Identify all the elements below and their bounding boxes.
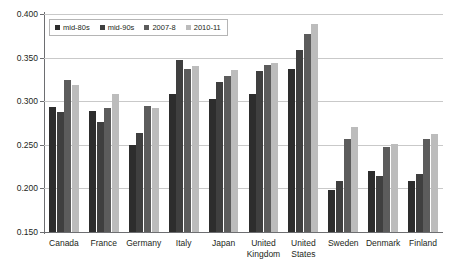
x-tick-label: Japan — [204, 238, 244, 249]
x-tick-label: Finland — [403, 238, 443, 249]
bar — [368, 171, 375, 232]
bar — [192, 66, 199, 232]
bar — [264, 65, 271, 232]
legend-item[interactable]: mid-90s — [100, 24, 135, 32]
bar — [129, 145, 136, 232]
legend-swatch-icon — [100, 25, 105, 30]
x-tick-label: France — [84, 238, 124, 249]
bar — [176, 60, 183, 232]
bar-group — [84, 14, 124, 232]
legend-label: 2007-8 — [152, 24, 175, 32]
gridline — [44, 232, 443, 233]
x-tick-label: United States — [283, 238, 323, 259]
bar — [216, 82, 223, 232]
bar — [144, 106, 151, 232]
bar — [231, 70, 238, 232]
legend-swatch-icon — [144, 25, 149, 30]
bar — [152, 108, 159, 232]
bar — [209, 99, 216, 232]
x-tick-label: Denmark — [363, 238, 403, 249]
bar — [112, 94, 119, 232]
bar — [256, 71, 263, 232]
bar — [97, 122, 104, 232]
bar — [423, 139, 430, 232]
y-tick-label: 0.350 — [0, 54, 38, 63]
bar-group — [204, 14, 244, 232]
bar — [351, 127, 358, 233]
bar-group — [124, 14, 164, 232]
x-tick-label: Italy — [164, 238, 204, 249]
bar — [72, 85, 79, 232]
x-tick-label: United Kingdom — [244, 238, 284, 259]
bar — [344, 139, 351, 232]
bar — [169, 94, 176, 232]
x-axis-labels: CanadaFranceGermanyItalyJapanUnited King… — [44, 238, 443, 268]
y-tick-label: 0.300 — [0, 97, 38, 106]
bar-chart: 0.4000.3500.3000.2500.2000.150 mid-80smi… — [0, 0, 451, 269]
bar — [49, 107, 56, 232]
bar — [416, 174, 423, 232]
bar — [328, 190, 335, 232]
bar-group — [164, 14, 204, 232]
y-tick-label: 0.250 — [0, 141, 38, 150]
bar — [408, 181, 415, 232]
bar-group — [283, 14, 323, 232]
bar-group — [323, 14, 363, 232]
x-tick-label: Germany — [124, 238, 164, 249]
bar-group — [244, 14, 284, 232]
legend-swatch-icon — [186, 25, 191, 30]
legend-label: 2010-11 — [194, 24, 221, 32]
legend-item[interactable]: mid-80s — [55, 24, 90, 32]
y-axis-labels: 0.4000.3500.3000.2500.2000.150 — [0, 0, 44, 269]
x-tick-label: Sweden — [323, 238, 363, 249]
y-tick-mark — [40, 232, 44, 233]
bar — [391, 144, 398, 232]
bar — [376, 176, 383, 232]
bar — [249, 94, 256, 232]
bar — [336, 181, 343, 232]
bar-group — [403, 14, 443, 232]
bar — [431, 134, 438, 232]
bar — [311, 24, 318, 232]
bar — [136, 133, 143, 232]
bar — [184, 69, 191, 232]
bar — [383, 147, 390, 232]
bar — [104, 108, 111, 232]
legend-item[interactable]: 2007-8 — [144, 24, 175, 32]
bar-group — [44, 14, 84, 232]
y-tick-label: 0.200 — [0, 184, 38, 193]
y-tick-label: 0.150 — [0, 228, 38, 237]
legend-swatch-icon — [55, 25, 60, 30]
bar — [288, 69, 295, 232]
legend-label: mid-80s — [63, 24, 90, 32]
bar-groups — [44, 14, 443, 232]
bar — [224, 76, 231, 232]
legend-item[interactable]: 2010-11 — [186, 24, 221, 32]
chart-legend: mid-80smid-90s2007-82010-11 — [49, 19, 228, 36]
bar — [304, 34, 311, 232]
bar — [89, 111, 96, 232]
bar-group — [363, 14, 403, 232]
legend-label: mid-90s — [108, 24, 135, 32]
bar — [271, 63, 278, 232]
bar — [64, 80, 71, 232]
bar — [57, 112, 64, 232]
y-tick-label: 0.400 — [0, 10, 38, 19]
x-tick-label: Canada — [44, 238, 84, 249]
plot-area — [44, 14, 443, 232]
bar — [296, 50, 303, 232]
